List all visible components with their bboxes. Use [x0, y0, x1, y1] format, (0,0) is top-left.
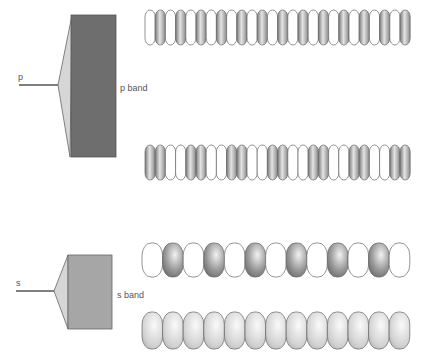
bead [267, 10, 277, 45]
bead [267, 145, 277, 180]
bead [155, 10, 165, 45]
bead [247, 145, 257, 180]
bead [237, 10, 247, 45]
bead [142, 312, 163, 349]
bead [245, 312, 266, 349]
bead [400, 10, 410, 45]
bead [307, 243, 328, 277]
bead [204, 312, 225, 349]
bead [247, 10, 257, 45]
bead [183, 243, 204, 277]
bead [163, 312, 184, 349]
s-input-label: s [16, 278, 21, 288]
bead [307, 312, 328, 349]
bead [369, 243, 390, 277]
bead [224, 243, 245, 277]
bead [266, 312, 287, 349]
band-formation-diagram [0, 0, 425, 354]
bead [286, 312, 307, 349]
bead [186, 10, 196, 45]
bead [389, 243, 410, 277]
bead [318, 10, 328, 45]
bead [348, 312, 369, 349]
bead [349, 145, 359, 180]
bead [145, 145, 155, 180]
bead [318, 145, 328, 180]
p-funnel [58, 15, 72, 157]
bead [216, 10, 226, 45]
bead [186, 145, 196, 180]
bead [176, 10, 186, 45]
bead [224, 312, 245, 349]
bead [288, 10, 298, 45]
s-band-label: s band [117, 290, 144, 300]
bead [165, 145, 175, 180]
bead [380, 145, 390, 180]
p-band-label: p band [120, 83, 148, 93]
bead [176, 145, 186, 180]
bead [339, 145, 349, 180]
bead [380, 10, 390, 45]
bead [206, 145, 216, 180]
bead [266, 243, 287, 277]
bead [400, 145, 410, 180]
bead [288, 145, 298, 180]
s-chain-top [142, 243, 410, 277]
p-chain-bottom [145, 145, 410, 180]
s-band-block [16, 255, 112, 329]
bead [278, 145, 288, 180]
bead [227, 145, 237, 180]
bead [163, 243, 184, 277]
bead [286, 243, 307, 277]
bead [145, 10, 155, 45]
p-chain-top [145, 10, 410, 45]
p-band-block [19, 15, 116, 157]
s-chain-bottom [142, 312, 410, 349]
bead [369, 10, 379, 45]
bead [206, 10, 216, 45]
bead [196, 145, 206, 180]
bead [327, 243, 348, 277]
bead [390, 145, 400, 180]
bead [390, 10, 400, 45]
bead [257, 145, 267, 180]
bead [327, 312, 348, 349]
s-funnel [54, 255, 68, 329]
bead [339, 10, 349, 45]
bead [389, 312, 410, 349]
bead [298, 10, 308, 45]
bead [257, 10, 267, 45]
bead [165, 10, 175, 45]
bead [183, 312, 204, 349]
bead [278, 10, 288, 45]
p-band-rect [71, 15, 116, 157]
bead [308, 145, 318, 180]
bead [329, 10, 339, 45]
p-input-label: p [18, 72, 23, 82]
bead [359, 145, 369, 180]
bead [227, 10, 237, 45]
bead [142, 243, 163, 277]
bead [369, 145, 379, 180]
bead [204, 243, 225, 277]
bead [216, 145, 226, 180]
bead [359, 10, 369, 45]
bead [245, 243, 266, 277]
bead [298, 145, 308, 180]
bead [155, 145, 165, 180]
bead [369, 312, 390, 349]
bead [237, 145, 247, 180]
bead [349, 10, 359, 45]
bead [308, 10, 318, 45]
s-band-rect [68, 255, 112, 329]
bead [329, 145, 339, 180]
bead [348, 243, 369, 277]
bead [196, 10, 206, 45]
